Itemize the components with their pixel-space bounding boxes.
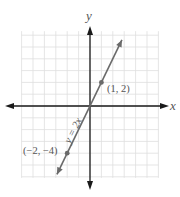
- point-label-1-2: (1, 2): [107, 83, 130, 95]
- arrow-left-icon: [5, 103, 14, 109]
- data-point: [99, 80, 104, 85]
- y-axis-label: y: [84, 8, 92, 23]
- coordinate-plane: y x (1, 2) (−2, −4) y = 2x: [0, 0, 180, 197]
- data-point: [65, 151, 70, 156]
- point-label-neg2-neg4: (−2, −4): [23, 145, 58, 157]
- x-axis-label: x: [169, 98, 176, 113]
- arrow-down-icon: [87, 181, 93, 190]
- arrow-up-icon: [87, 26, 93, 35]
- arrow-right-icon: [160, 103, 169, 109]
